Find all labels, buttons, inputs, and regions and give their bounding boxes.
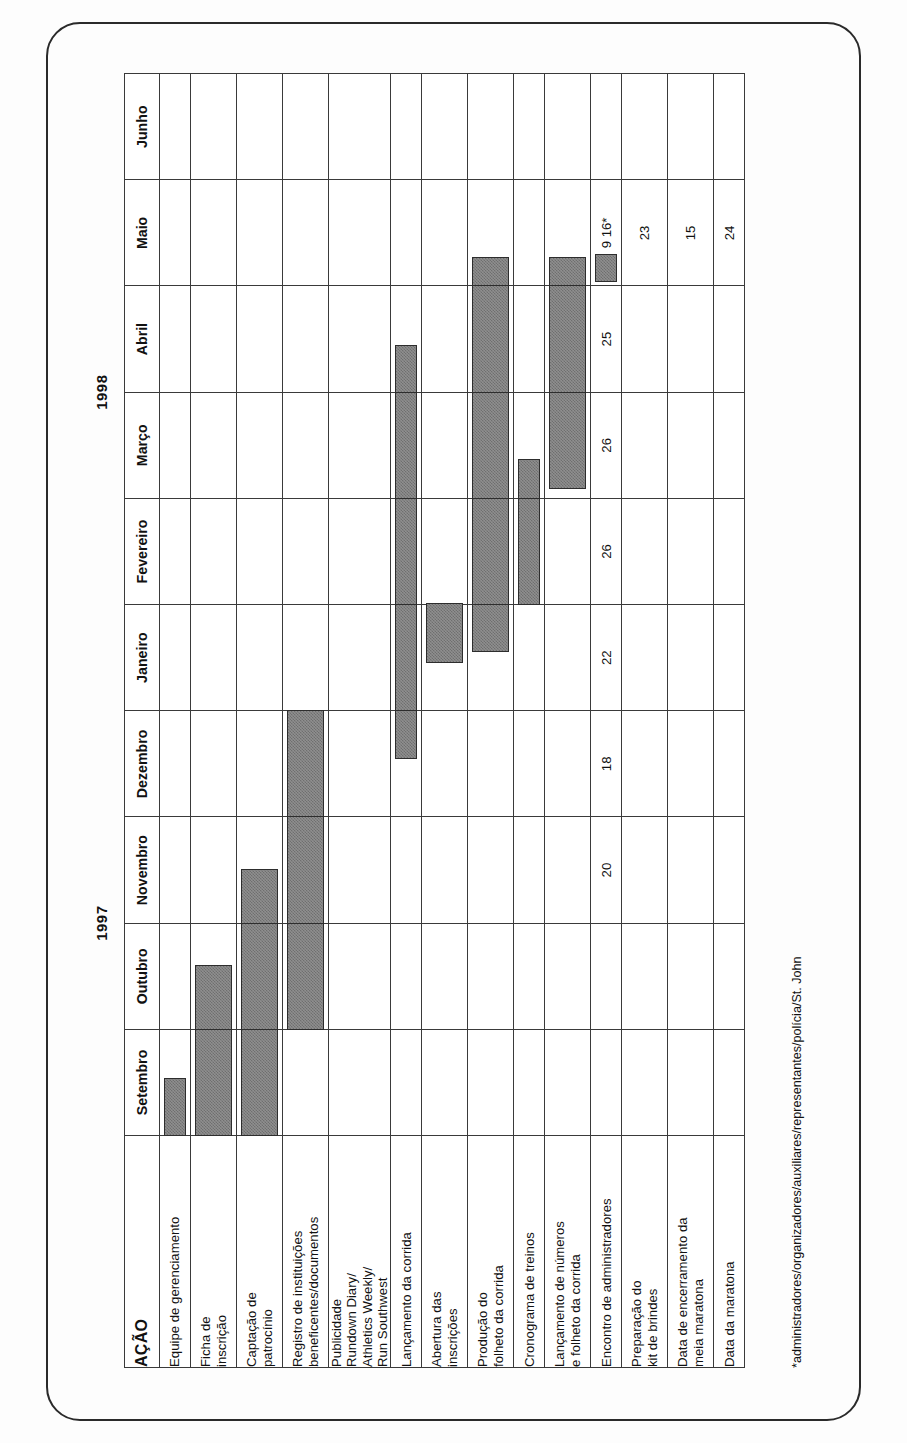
task-row: Ficha de inscrição [191,74,237,1368]
task-row: Preparação do kit de brindes23 [622,74,668,1368]
gantt-cell [160,711,191,817]
gantt-cell [329,923,391,1029]
gantt-cell [391,1029,422,1135]
task-row: Produção do folheto da corrida [468,74,514,1368]
gantt-cell [468,74,514,180]
date-number: 23 [637,226,652,241]
month-header-janeiro: Janeiro [125,605,160,711]
task-label: Encontro de administradores [591,1136,622,1368]
gantt-cell [422,74,468,180]
gantt-cell [514,180,545,286]
gantt-cell [714,74,745,180]
gantt-cell [422,286,468,392]
month-header-maio: Maio [125,180,160,286]
gantt-cell [283,498,329,604]
gantt-cell: 24 [714,180,745,286]
action-column-header: AÇÃO [125,1136,160,1368]
gantt-cell [422,605,468,711]
gantt-cell [514,711,545,817]
gantt-cell [283,286,329,392]
gantt-cell [422,923,468,1029]
gantt-cell [622,286,668,392]
gantt-cell [329,498,391,604]
gantt-cell [668,817,714,923]
gantt-cell [391,286,422,392]
gantt-bar [472,392,509,499]
gantt-cell [422,392,468,498]
gantt-cell [160,1029,191,1135]
gantt-cell [545,392,591,498]
gantt-cell [191,923,237,1029]
date-number: 9 16* [599,218,614,249]
date-number: 15 [683,226,698,241]
gantt-cell [283,392,329,498]
gantt-cell [668,286,714,392]
month-header-abril: Abril [125,286,160,392]
gantt-cell: 15 [668,180,714,286]
gantt-cell [668,923,714,1029]
gantt-cell [329,1029,391,1135]
gantt-cell [422,711,468,817]
gantt-cell [622,923,668,1029]
gantt-cell [622,605,668,711]
gantt-cell [283,817,329,923]
gantt-cell [422,817,468,923]
gantt-cell [622,1029,668,1135]
gantt-cell [468,817,514,923]
gantt-chart: 19971998 AÇÃOSetembroOutubroNovembroDeze… [78,73,778,1368]
gantt-cell [468,180,514,286]
gantt-bar [426,603,463,663]
gantt-bar [241,1029,278,1136]
year-header-1997: 1997 [78,711,125,1136]
task-row: Data de encerramento da meia maratona15 [668,74,714,1368]
gantt-cell [391,74,422,180]
gantt-cell [329,286,391,392]
task-row: Data da maratona24 [714,74,745,1368]
task-label: Lançamento da corrida [391,1136,422,1368]
gantt-cell [283,74,329,180]
gantt-cell [391,605,422,711]
gantt-bar [395,604,417,711]
task-label: Data de encerramento da meia maratona [668,1136,714,1368]
gantt-cell [514,817,545,923]
gantt-cell [468,392,514,498]
gantt-cell [160,286,191,392]
gantt-cell [468,605,514,711]
gantt-cell [545,605,591,711]
gantt-table-head: 19971998 AÇÃOSetembroOutubroNovembroDeze… [78,74,160,1368]
gantt-cell [591,923,622,1029]
gantt-bar [549,286,586,393]
gantt-cell [191,286,237,392]
gantt-cell [591,1029,622,1135]
task-row: Registro de instituições beneficentes/do… [283,74,329,1368]
gantt-cell [160,74,191,180]
month-header-junho: Junho [125,74,160,180]
task-row: Captação de patrocínio [237,74,283,1368]
month-header-novembro: Novembro [125,817,160,923]
gantt-cell [391,392,422,498]
task-label: Data da maratona [714,1136,745,1368]
gantt-cell [191,711,237,817]
gantt-cell [714,498,745,604]
gantt-cell [622,392,668,498]
gantt-cell [329,817,391,923]
task-label: Lançamento de números e folheto da corri… [545,1136,591,1368]
gantt-bar [287,816,324,923]
task-label: Preparação do kit de brindes [622,1136,668,1368]
gantt-bar [472,286,509,393]
gantt-bar [195,1029,232,1136]
gantt-cell [714,711,745,817]
gantt-bar [164,1078,186,1136]
gantt-cell [191,817,237,923]
gantt-bar [395,345,417,392]
gantt-cell [283,1029,329,1135]
gantt-bar [549,391,586,490]
gantt-cell: 26 [591,498,622,604]
date-number: 20 [599,863,614,878]
gantt-cell [391,180,422,286]
task-label: Abertura das inscrições [422,1136,468,1368]
date-number: 26 [599,544,614,559]
gantt-cell [545,286,591,392]
gantt-cell [514,605,545,711]
gantt-bar [287,710,324,817]
